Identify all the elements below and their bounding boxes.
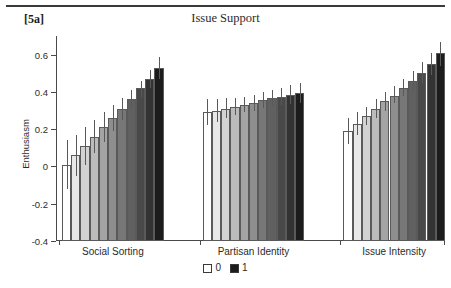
error-bar <box>150 70 151 89</box>
legend-label: 1 <box>242 263 248 273</box>
legend-item: 0 <box>203 263 221 273</box>
y-axis-tick-label: 0 <box>6 161 48 172</box>
bar <box>108 118 117 241</box>
figure-panel-5a: [5a] Issue Support Enthusiasm -0.4-0.200… <box>0 0 451 288</box>
y-axis-tick-label: 0.2 <box>6 124 48 135</box>
error-bar <box>385 92 386 111</box>
y-axis-tick <box>51 241 56 242</box>
error-bar <box>254 95 255 111</box>
y-axis-tick-label: 0.6 <box>6 49 48 60</box>
bar <box>154 68 163 241</box>
error-bar <box>281 88 282 105</box>
x-axis-group-label: Partisan Identity <box>218 246 290 257</box>
bar <box>267 98 276 241</box>
error-bar <box>403 79 404 96</box>
legend-item: 1 <box>230 263 248 273</box>
bar <box>136 88 145 241</box>
bar <box>127 99 136 241</box>
chart-title: Issue Support <box>0 11 451 26</box>
x-axis-tick <box>444 241 445 245</box>
bar <box>286 95 295 241</box>
error-bar <box>113 105 114 131</box>
error-bar <box>122 98 123 120</box>
error-bar <box>244 97 245 113</box>
bar <box>417 73 426 241</box>
x-axis-tick <box>340 241 341 245</box>
bar <box>277 97 286 241</box>
top-rule <box>6 5 445 7</box>
error-bar <box>300 83 301 104</box>
error-bar <box>272 90 273 106</box>
bar <box>99 127 108 241</box>
plot-area: -0.4-0.200.20.40.6 <box>56 36 445 241</box>
bar <box>380 101 389 241</box>
y-axis-line <box>56 36 57 241</box>
x-axis-tick <box>200 241 201 245</box>
error-bar <box>131 90 132 109</box>
bar <box>203 112 212 241</box>
error-bar <box>431 53 432 75</box>
error-bar <box>226 98 227 118</box>
bar <box>343 131 352 241</box>
error-bar <box>207 99 208 125</box>
bar <box>240 105 249 241</box>
bar <box>362 116 371 241</box>
y-axis-tick <box>51 129 56 130</box>
bar <box>249 103 258 241</box>
error-bar <box>67 140 68 188</box>
error-bar <box>366 107 367 126</box>
bar <box>221 109 230 241</box>
error-bar <box>263 92 264 108</box>
chart-legend: 01 <box>0 263 451 273</box>
y-axis-tick-label: -0.4 <box>6 236 48 247</box>
error-bar <box>94 120 95 154</box>
error-bar <box>235 98 236 116</box>
error-bar <box>290 85 291 104</box>
error-bar <box>159 57 160 79</box>
bar <box>212 111 221 241</box>
error-bar <box>76 135 77 176</box>
bar <box>230 107 239 241</box>
x-axis-tick <box>59 241 60 245</box>
error-bar <box>217 99 218 121</box>
error-bar <box>348 118 349 144</box>
y-axis-tick <box>51 92 56 93</box>
y-axis-tick-label: 0.4 <box>6 86 48 97</box>
y-axis-tick <box>51 55 56 56</box>
y-axis-tick-label: -0.2 <box>6 198 48 209</box>
x-axis-group-label: Issue Intensity <box>362 246 426 257</box>
bar <box>295 93 304 241</box>
legend-swatch <box>230 264 239 273</box>
bar <box>436 53 445 241</box>
x-axis-group-label: Social Sorting <box>82 246 144 257</box>
bar <box>408 81 417 241</box>
error-bar <box>422 62 423 83</box>
bar <box>145 79 154 241</box>
error-bar <box>104 112 105 142</box>
bar <box>258 100 267 241</box>
bar <box>399 88 408 241</box>
y-axis-tick <box>51 204 56 205</box>
bar <box>371 109 380 241</box>
bar <box>427 64 436 241</box>
error-bar <box>440 42 441 66</box>
error-bar <box>413 71 414 90</box>
bar <box>117 109 126 241</box>
error-bar <box>357 112 358 134</box>
y-axis-tick <box>51 166 56 167</box>
bar <box>353 124 362 241</box>
legend-label: 0 <box>215 263 221 273</box>
error-bar <box>394 86 395 103</box>
error-bar <box>141 81 142 98</box>
error-bar <box>376 99 377 118</box>
error-bar <box>85 127 86 164</box>
legend-swatch <box>203 264 212 273</box>
bar <box>390 96 399 241</box>
